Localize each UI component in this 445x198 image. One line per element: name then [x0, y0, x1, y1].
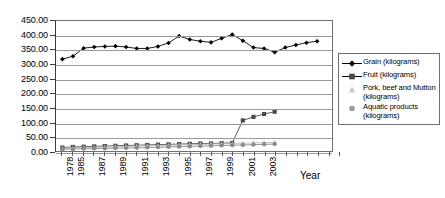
gridline [56, 65, 332, 66]
y-tick-label: 50.00 [26, 133, 48, 142]
x-tick-mark [126, 152, 127, 156]
legend-item-fruit: Fruit (kilograms) [341, 71, 436, 82]
x-tick-mark [318, 152, 319, 156]
legend-label-grain: Grain (kilograms) [363, 58, 420, 67]
x-tick-mark [179, 152, 180, 156]
gridline [56, 80, 332, 81]
data-point-marker [166, 41, 171, 46]
x-tick-label: 1993 [161, 157, 171, 176]
data-point-marker [209, 40, 214, 45]
x-tick-label: 1995 [183, 157, 193, 176]
x-tick-mark [307, 152, 308, 156]
y-tick-label: 100.00 [21, 118, 48, 127]
gridline [56, 124, 332, 125]
x-tick-mark [115, 152, 116, 156]
x-tick-mark [158, 152, 159, 156]
x-tick-mark [200, 152, 201, 156]
gridline [56, 94, 332, 95]
data-point-marker [135, 146, 139, 150]
data-point-marker [92, 146, 96, 150]
chart-legend: Grain (kilograms) Fruit (kilograms) Pork… [338, 53, 440, 125]
x-tick-mark [275, 152, 276, 156]
y-tick-label: 450.00 [21, 16, 48, 25]
data-point-marker [209, 144, 213, 148]
data-point-marker [60, 147, 64, 151]
y-axis: 450.00400.00350.00300.00250.00200.00150.… [0, 0, 55, 172]
data-point-marker [251, 45, 256, 50]
x-tick-mark [211, 152, 212, 156]
data-point-marker [315, 39, 320, 44]
y-tick-label: 150.00 [21, 104, 48, 113]
gridline [56, 36, 332, 37]
data-point-marker [220, 143, 224, 147]
data-point-marker [251, 143, 255, 147]
data-point-marker [113, 44, 118, 49]
x-tick-mark [83, 152, 84, 156]
x-tick-mark [168, 152, 169, 156]
data-point-marker [219, 36, 224, 41]
data-point-marker [262, 142, 266, 146]
gridline [56, 109, 332, 110]
x-tick-mark [286, 152, 287, 156]
x-tick-mark [222, 152, 223, 156]
data-point-marker [124, 45, 129, 50]
data-point-marker [124, 146, 128, 150]
data-point-marker [294, 43, 299, 48]
data-point-marker [283, 45, 288, 50]
x-tick-label: 1978 [65, 157, 75, 176]
legend-item-pork-beef-mutton: Pork, beef and Mutton (kilograms) [341, 84, 436, 101]
data-point-marker [198, 39, 203, 44]
data-point-marker [145, 145, 149, 149]
x-tick-label: 1999 [225, 157, 235, 176]
x-tick-label: 2001 [247, 157, 257, 176]
data-point-marker [188, 144, 192, 148]
data-point-marker [262, 112, 266, 116]
data-point-marker [82, 147, 86, 151]
gridline [56, 138, 332, 139]
data-point-marker [241, 38, 246, 43]
legend-marker-square-icon [341, 71, 363, 82]
y-tick-label: 0.00 [31, 148, 48, 157]
x-tick-mark [297, 152, 298, 156]
data-point-marker [273, 110, 277, 114]
x-tick-mark [243, 152, 244, 156]
x-tick-mark [339, 152, 340, 156]
legend-label-pork-beef-mutton: Pork, beef and Mutton (kilograms) [363, 84, 436, 101]
gridline [56, 50, 332, 51]
data-point-marker [103, 146, 107, 150]
series-layer [56, 21, 332, 151]
x-tick-mark [93, 152, 94, 156]
data-point-marker [241, 118, 245, 122]
data-point-marker [198, 144, 202, 148]
x-tick-mark [232, 152, 233, 156]
data-point-marker [273, 142, 277, 146]
data-point-marker [304, 40, 309, 45]
data-point-marker [60, 57, 65, 62]
series-diamond [60, 32, 319, 61]
x-tick-mark [190, 152, 191, 156]
x-tick-mark [147, 152, 148, 156]
plot-area [55, 20, 333, 152]
y-tick-label: 300.00 [21, 60, 48, 69]
x-axis-title: Year [300, 170, 320, 181]
y-tick-label: 350.00 [21, 45, 48, 54]
x-tick-mark [72, 152, 73, 156]
data-point-marker [241, 143, 245, 147]
data-point-marker [113, 146, 117, 150]
data-point-marker [92, 45, 97, 50]
data-point-marker [187, 37, 192, 42]
data-point-marker [156, 145, 160, 149]
legend-marker-triangle-icon [341, 84, 363, 95]
data-point-marker [230, 143, 234, 147]
legend-marker-diamond-icon [341, 58, 363, 69]
x-tick-mark [61, 152, 62, 156]
y-tick-label: 200.00 [21, 89, 48, 98]
legend-label-fruit: Fruit (kilograms) [363, 71, 416, 80]
x-tick-mark [104, 152, 105, 156]
legend-item-grain: Grain (kilograms) [341, 58, 436, 69]
legend-marker-circle-icon [341, 103, 363, 114]
x-tick-label: 2003 [268, 157, 278, 176]
x-tick-mark [136, 152, 137, 156]
x-tick-mark [329, 152, 330, 156]
y-tick-label: 250.00 [21, 74, 48, 83]
